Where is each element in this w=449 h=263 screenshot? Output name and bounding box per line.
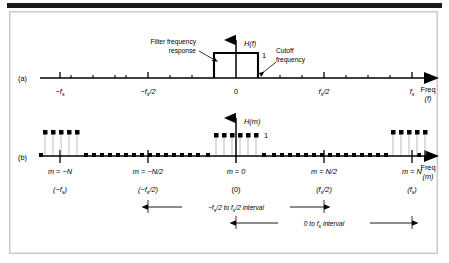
interval-annotations: −fs/2 to fs/2 interval 0 to fs interval	[148, 200, 412, 229]
panel-b-axis-name-line1: Freq	[420, 163, 435, 172]
panel-a-axis-name-line2: (f)	[425, 94, 433, 103]
panel-a-tick-labels: −fs −fs/2 0 fs/2 fs	[56, 87, 415, 97]
paren-label-zero: (0)	[231, 185, 240, 194]
passband-group-left	[43, 130, 80, 155]
cutoff-label-line2: frequency	[276, 56, 306, 64]
panel-a-amplitude-value: 1	[262, 51, 266, 60]
paren-label-fs-half: (fs/2)	[316, 185, 332, 195]
passband-group-right	[391, 130, 428, 155]
cutoff-label-line1: Cutoff	[276, 47, 294, 54]
tick-label-fs: fs	[410, 87, 415, 97]
panel-b-amplitude-value: 1	[264, 131, 268, 140]
tick-label-neg-fs-half: −fs/2	[140, 87, 155, 97]
filter-response-label-line1: Filter frequency	[151, 38, 197, 46]
panel-b-axis-label: H(m)	[244, 117, 261, 126]
panel-b: (b) H(m)	[18, 117, 436, 195]
figure-container: (a)	[0, 0, 449, 263]
filter-response-label-line2: response	[169, 47, 196, 55]
panel-b-tick-labels: m = −N m = −N/2 m = 0 m = N/2 m = N	[48, 167, 423, 176]
m-label-n-half: m = N/2	[311, 167, 337, 176]
panel-b-label: (b)	[18, 153, 27, 162]
zero-to-fs-interval-annotation: 0 to fs interval	[236, 216, 412, 229]
panel-b-paren-labels: (−fs) (−fs/2) (0) (fs/2) (fs)	[53, 185, 417, 195]
paren-label-neg-fs-half: (−fs/2)	[138, 185, 159, 195]
tick-label-neg-fs: −fs	[56, 87, 65, 97]
panel-b-axis-name-line2: (m)	[422, 172, 434, 181]
m-label-neg-n-half: m = −N/2	[133, 167, 163, 176]
panel-a-axis-name-line1: Freq	[420, 85, 435, 94]
zero-to-fs-interval-label: 0 to fs interval	[304, 220, 345, 229]
panel-a-label: (a)	[18, 74, 27, 83]
panel-a: (a)	[18, 38, 436, 103]
paren-label-neg-fs: (−fs)	[53, 185, 67, 195]
m-label-neg-n: m = −N	[48, 167, 73, 176]
tick-label-fs-half: fs/2	[319, 87, 330, 97]
paren-label-fs: (fs)	[407, 185, 417, 195]
tick-label-zero: 0	[234, 87, 238, 96]
passband-group-center: 1	[214, 131, 268, 155]
m-label-zero: m = 0	[227, 167, 247, 176]
diagram-svg: (a)	[0, 0, 449, 263]
filter-response-leader-line	[199, 51, 213, 59]
panel-a-axis-label: H(f)	[244, 39, 257, 48]
symmetric-interval-label: −fs/2 to fs/2 interval	[208, 204, 264, 213]
cutoff-leader-line	[260, 62, 276, 75]
symmetric-interval-annotation: −fs/2 to fs/2 interval	[148, 200, 324, 213]
